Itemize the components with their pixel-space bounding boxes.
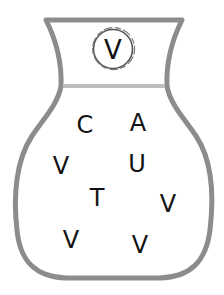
letter-tile[interactable]: U xyxy=(128,152,146,176)
letter-tile[interactable]: V xyxy=(63,228,79,252)
letter-tile[interactable]: T xyxy=(90,186,105,210)
vase-letter-puzzle: V C A V U T V V V xyxy=(0,0,224,295)
letter-tile[interactable]: C xyxy=(77,113,94,137)
letter-tile[interactable]: V xyxy=(132,233,148,257)
letter-tile[interactable]: A xyxy=(130,111,146,135)
letter-tile[interactable]: V xyxy=(53,154,69,178)
key-letter: V xyxy=(104,37,122,63)
letter-tile[interactable]: V xyxy=(160,192,176,216)
